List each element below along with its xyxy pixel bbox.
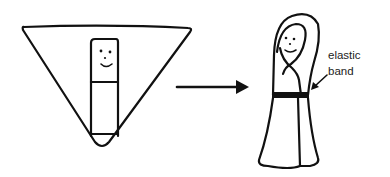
drawing-canvas: [0, 0, 390, 177]
right-arrow-icon: [177, 80, 249, 94]
annotation-label-band: band: [328, 63, 354, 79]
label-pointer-arrow-icon: [311, 75, 327, 90]
elastic-band: [272, 92, 309, 98]
smiley-face-icon: [100, 50, 112, 67]
face-strip: [91, 39, 118, 136]
smiley-face-icon: [285, 37, 296, 52]
annotation-label-elastic: elastic: [328, 47, 361, 63]
wrapped-figure: [259, 14, 327, 168]
triangle-fabric: [23, 26, 191, 146]
illustration: elastic band: [0, 0, 390, 177]
